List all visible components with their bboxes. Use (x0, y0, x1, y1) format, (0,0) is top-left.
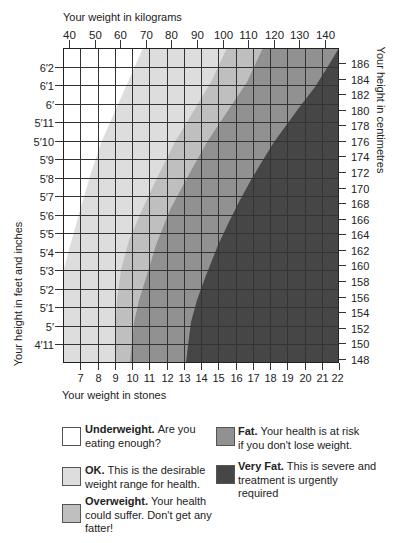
legend-line: OK.This is the desirable (85, 464, 205, 478)
kg-tick-label: 100 (214, 29, 233, 41)
left-axis-title: Your height in feet and inches (12, 222, 24, 367)
height-ft-tick-label: 5′1 (40, 302, 54, 314)
legend-text: Underweight.Are you eating enough? (85, 423, 196, 450)
cm-axis: 1861841821801781761741721701681661641621… (339, 58, 369, 366)
height-ft-tick-label: 5′11 (34, 117, 54, 129)
stone-tick-label: 18 (264, 372, 276, 384)
height-ft-tick-label: 5′7 (40, 191, 54, 203)
legend-label: Underweight. (85, 423, 155, 435)
legend-item-ok: OK.This is the desirable weight range fo… (62, 467, 63, 468)
legend-line: fatter! (85, 522, 212, 536)
height-ft-tick-label: 4′11 (34, 339, 54, 351)
legend-line: if you don't lose weight. (238, 439, 359, 453)
height-cm-tick-label: 158 (351, 276, 369, 288)
legend-line: could suffer. Don't get any (85, 509, 212, 523)
height-cm-tick-label: 152 (351, 323, 369, 335)
legend-line: Very Fat.This is severe and (238, 460, 376, 474)
height-cm-tick-label: 162 (351, 245, 369, 257)
height-cm-tick-label: 182 (351, 89, 369, 101)
kg-tick-label: 70 (140, 29, 153, 41)
legend-line: eating enough? (85, 437, 196, 451)
height-ft-tick-label: 5′6 (40, 210, 54, 222)
legend-description: Your health is at risk (261, 425, 360, 437)
legend-swatch-fat (216, 427, 235, 446)
stone-tick-label: 9 (112, 372, 118, 384)
height-ft-tick-label: 5′2 (40, 284, 54, 296)
kg-tick-label: 90 (191, 29, 204, 41)
kg-tick-label: 130 (290, 29, 309, 41)
stone-tick-label: 14 (195, 372, 207, 384)
kg-tick-label: 140 (316, 29, 335, 41)
height-cm-tick-label: 184 (351, 74, 369, 86)
stone-tick-label: 17 (247, 372, 259, 384)
height-cm-tick-label: 172 (351, 167, 369, 179)
stone-tick-label: 21 (316, 372, 328, 384)
legend-item-very-fat: Very Fat.This is severe and treatment is… (216, 465, 217, 466)
legend-description: Are you (158, 423, 196, 435)
height-cm-tick-label: 164 (351, 229, 369, 241)
height-cm-tick-label: 180 (351, 105, 369, 117)
legend-item-underweight: Underweight.Are you eating enough? (62, 427, 63, 428)
legend-label: Fat. (238, 425, 258, 437)
height-ft-tick-label: 5′3 (40, 265, 54, 277)
legend-swatch-very-fat (216, 465, 235, 484)
legend-line: Overweight.Your health (85, 495, 212, 509)
height-cm-tick-label: 186 (351, 58, 369, 70)
stone-tick-label: 12 (161, 372, 173, 384)
stone-tick-label: 20 (299, 372, 311, 384)
stone-tick-label: 19 (281, 372, 293, 384)
legend-swatch-ok (62, 467, 81, 486)
feet-inches-axis: 6′26′16′5′115′105′95′85′75′65′55′45′35′2… (34, 62, 63, 351)
height-cm-tick-label: 150 (351, 338, 369, 350)
legend-swatch-underweight (62, 427, 81, 446)
legend-line: weight range for health. (85, 478, 205, 492)
height-ft-tick-label: 5′8 (40, 173, 54, 185)
legend-label: Overweight. (85, 495, 148, 507)
legend-line: treatment is urgently (238, 474, 376, 488)
legend-text: Fat.Your health is at risk if you don't … (238, 425, 359, 452)
height-cm-tick-label: 168 (351, 198, 369, 210)
height-cm-tick-label: 176 (351, 136, 369, 148)
stone-tick-label: 15 (212, 372, 224, 384)
kg-tick-label: 60 (114, 29, 127, 41)
legend-line: Fat.Your health is at risk (238, 425, 359, 439)
kg-tick-label: 40 (63, 29, 76, 41)
height-weight-chart: 4050607080901001101201301406′26′16′5′115… (0, 0, 399, 405)
kg-tick-label: 120 (265, 29, 284, 41)
height-cm-tick-label: 154 (351, 307, 369, 319)
kg-tick-label: 110 (239, 29, 257, 41)
height-ft-tick-label: 5′9 (40, 154, 54, 166)
legend-label: OK. (85, 464, 105, 476)
height-ft-tick-label: 6′ (46, 99, 54, 111)
stone-tick-label: 16 (230, 372, 242, 384)
legend-item-fat: Fat.Your health is at risk if you don't … (216, 427, 217, 428)
legend-description: This is the desirable (108, 464, 206, 476)
height-cm-tick-label: 178 (351, 120, 369, 132)
height-cm-tick-label: 156 (351, 292, 369, 304)
height-ft-tick-label: 6′1 (40, 80, 54, 92)
height-ft-tick-label: 5′5 (40, 228, 54, 240)
height-cm-tick-label: 160 (351, 260, 369, 272)
legend-item-overweight: Overweight.Your health could suffer. Don… (62, 504, 63, 505)
height-ft-tick-label: 5′4 (40, 247, 54, 259)
legend-text: OK.This is the desirable weight range fo… (85, 464, 205, 491)
height-weight-chart-figure: Your weight in kilograms 405060708090100… (0, 0, 399, 543)
legend-line: Underweight.Are you (85, 423, 196, 437)
stone-tick-label: 13 (178, 372, 190, 384)
stone-tick-label: 10 (126, 372, 138, 384)
legend-swatch-overweight (62, 504, 81, 523)
stones-axis: 78910111213141516171819202122 (77, 363, 343, 384)
legend-text: Very Fat.This is severe and treatment is… (238, 460, 376, 501)
height-ft-tick-label: 5′10 (34, 136, 54, 148)
kg-tick-label: 80 (165, 29, 178, 41)
height-ft-tick-label: 5′ (46, 321, 54, 333)
height-cm-tick-label: 174 (351, 151, 369, 163)
legend-label: Very Fat. (238, 460, 284, 472)
height-cm-tick-label: 166 (351, 214, 369, 226)
legend-description: Your health (151, 495, 206, 507)
height-ft-tick-label: 6′2 (40, 62, 54, 74)
legend-text: Overweight.Your health could suffer. Don… (85, 495, 212, 536)
bottom-axis-title: Your weight in stones (62, 389, 166, 401)
stone-tick-label: 7 (77, 372, 83, 384)
height-cm-tick-label: 148 (351, 354, 369, 366)
